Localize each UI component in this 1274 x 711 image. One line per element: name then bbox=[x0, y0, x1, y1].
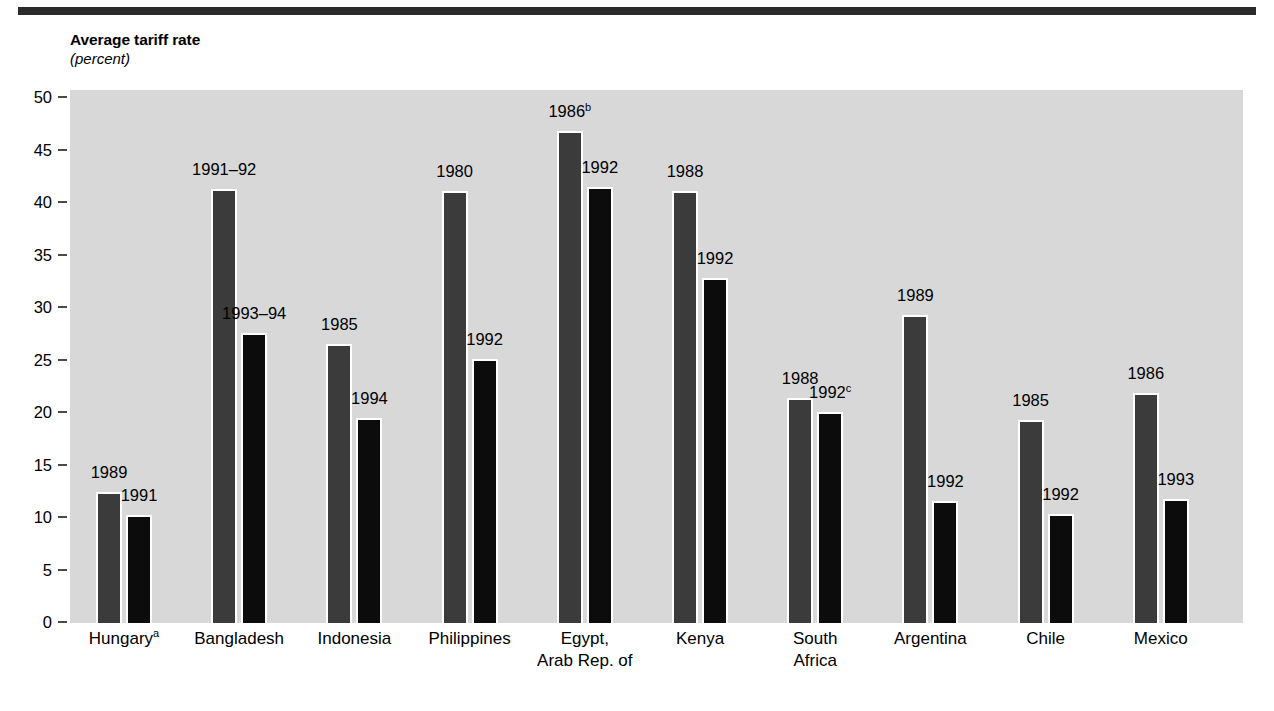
category-label-hungary: Hungarya bbox=[89, 628, 159, 650]
bar-philippines-second bbox=[472, 359, 498, 623]
y-axis-tick-mark bbox=[58, 411, 67, 413]
y-axis-tick-mark bbox=[58, 569, 67, 571]
chart-subtitle: (percent) bbox=[70, 50, 130, 67]
y-axis-tick-label: 50 bbox=[0, 88, 52, 107]
bar-year-label: 1992 bbox=[581, 158, 618, 177]
bar-kenya-first bbox=[672, 191, 698, 623]
bar-year-footnote-marker: c bbox=[846, 381, 852, 393]
bar-mexico-second bbox=[1163, 499, 1189, 623]
category-label-line: Philippines bbox=[428, 628, 510, 650]
bar-year-label: 1986 bbox=[1127, 364, 1164, 383]
bar-egypt-arab-rep-of-first bbox=[557, 131, 583, 624]
bar-year-label: 1985 bbox=[321, 315, 358, 334]
category-label-mexico: Mexico bbox=[1134, 628, 1188, 650]
category-label-line: Egypt, bbox=[537, 628, 632, 650]
bar-bangladesh-first bbox=[211, 189, 237, 623]
y-axis-tick-label: 35 bbox=[0, 245, 52, 264]
bar-year-label: 1993 bbox=[1157, 470, 1194, 489]
bar-egypt-arab-rep-of-second bbox=[587, 187, 613, 623]
bar-year-label: 1992 bbox=[466, 330, 503, 349]
category-label-line: Argentina bbox=[894, 628, 967, 650]
category-label-indonesia: Indonesia bbox=[318, 628, 392, 650]
bar-bangladesh-second bbox=[241, 333, 267, 623]
bar-indonesia-second bbox=[356, 418, 382, 623]
bar-indonesia-first bbox=[326, 344, 352, 623]
category-label-egypt-arab-rep-of: Egypt,Arab Rep. of bbox=[537, 628, 632, 672]
category-label-line: Chile bbox=[1026, 628, 1065, 650]
y-axis-tick-mark bbox=[58, 516, 67, 518]
category-label-line: South bbox=[793, 628, 837, 650]
bar-argentina-second bbox=[932, 501, 958, 623]
y-axis-tick-mark bbox=[58, 96, 67, 98]
y-axis-tick-label: 5 bbox=[0, 560, 52, 579]
bar-kenya-second bbox=[702, 278, 728, 624]
category-label-line: Arab Rep. of bbox=[537, 650, 632, 672]
bar-year-label: 1992 bbox=[1042, 485, 1079, 504]
bar-year-label: 1991–92 bbox=[192, 160, 256, 179]
bar-year-label: 1993–94 bbox=[222, 304, 286, 323]
bar-year-label: 1988 bbox=[667, 162, 704, 181]
y-axis-tick-label: 25 bbox=[0, 350, 52, 369]
y-axis-tick-mark bbox=[58, 254, 67, 256]
bar-year-label: 1992 bbox=[927, 472, 964, 491]
bar-chile-first bbox=[1018, 420, 1044, 623]
bar-philippines-first bbox=[442, 191, 468, 623]
y-axis-tick-mark bbox=[58, 306, 67, 308]
y-axis-tick-label: 20 bbox=[0, 403, 52, 422]
y-axis-tick-mark bbox=[58, 621, 67, 623]
y-axis-tick-label: 15 bbox=[0, 455, 52, 474]
category-label-line: Africa bbox=[793, 650, 837, 672]
category-label-line: Indonesia bbox=[318, 628, 392, 650]
bar-chile-second bbox=[1048, 514, 1074, 623]
bar-year-label: 1989 bbox=[897, 286, 934, 305]
bar-south-africa-first bbox=[787, 398, 813, 623]
chart-page: Average tariff rate (percent) 5045403530… bbox=[0, 0, 1274, 711]
y-axis-tick-mark bbox=[58, 149, 67, 151]
y-axis-tick-label: 40 bbox=[0, 193, 52, 212]
category-label-bangladesh: Bangladesh bbox=[194, 628, 284, 650]
category-label-kenya: Kenya bbox=[676, 628, 724, 650]
y-axis-tick-label: 0 bbox=[0, 613, 52, 632]
bar-south-africa-second bbox=[817, 412, 843, 623]
bar-year-label: 1980 bbox=[436, 162, 473, 181]
bar-year-label: 1989 bbox=[91, 463, 128, 482]
bar-year-label: 1991 bbox=[121, 486, 158, 505]
y-axis-tick-label: 10 bbox=[0, 508, 52, 527]
bar-year-label: 1994 bbox=[351, 389, 388, 408]
header-rule bbox=[18, 7, 1256, 15]
bar-year-label: 1985 bbox=[1012, 391, 1049, 410]
y-axis-tick-mark bbox=[58, 464, 67, 466]
y-axis-tick-label: 45 bbox=[0, 140, 52, 159]
category-footnote-marker: a bbox=[153, 627, 159, 639]
bar-argentina-first bbox=[902, 315, 928, 623]
category-label-philippines: Philippines bbox=[428, 628, 510, 650]
bar-year-footnote-marker: b bbox=[585, 100, 591, 112]
bar-year-label: 1992c bbox=[809, 383, 851, 402]
bar-mexico-first bbox=[1133, 393, 1159, 623]
category-label-south-africa: SouthAfrica bbox=[793, 628, 837, 672]
category-label-line: Bangladesh bbox=[194, 628, 284, 650]
y-axis-tick-mark bbox=[58, 359, 67, 361]
bar-hungary-first bbox=[96, 492, 122, 623]
y-axis-tick-label: 30 bbox=[0, 298, 52, 317]
category-label-chile: Chile bbox=[1026, 628, 1065, 650]
category-label-line: Hungarya bbox=[89, 628, 159, 650]
bar-hungary-second bbox=[126, 515, 152, 623]
chart-title: Average tariff rate bbox=[70, 31, 200, 49]
category-label-line: Kenya bbox=[676, 628, 724, 650]
category-label-argentina: Argentina bbox=[894, 628, 967, 650]
category-label-line: Mexico bbox=[1134, 628, 1188, 650]
y-axis-tick-mark bbox=[58, 201, 67, 203]
bar-year-label: 1992 bbox=[697, 249, 734, 268]
bar-year-label: 1986b bbox=[548, 102, 591, 121]
